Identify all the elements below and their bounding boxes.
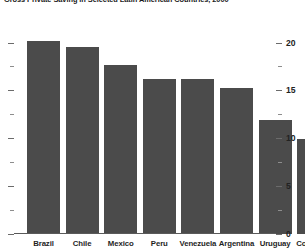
- bar-argentina: [220, 88, 253, 234]
- y-axis-label-20: 20: [286, 38, 296, 47]
- bar-chile: [66, 47, 99, 234]
- y-minor-tick-right-12.5: [278, 114, 282, 115]
- plot-area: 05101520 BrazilChileMexicoPeruVenezuelaA…: [0, 0, 305, 251]
- y-tick-right-10: [276, 138, 282, 139]
- y-tick-right-20: [276, 43, 282, 44]
- bar-mexico: [104, 65, 137, 234]
- y-axis-left-spine: [14, 30, 15, 234]
- y-axis-label-0: 0: [286, 229, 291, 238]
- x-axis-baseline: [14, 233, 276, 234]
- x-axis-label-colombia: Colombia: [291, 239, 305, 249]
- y-tick-right-15: [276, 90, 282, 91]
- y-minor-tick-right-17.5: [278, 66, 282, 67]
- y-tick-right-0: [276, 234, 282, 235]
- y-minor-tick-right-2.5: [278, 210, 282, 211]
- y-axis-label-5: 5: [286, 181, 291, 190]
- bar-peru: [143, 79, 176, 234]
- y-tick-right-5: [276, 186, 282, 187]
- bar-brazil: [27, 41, 60, 234]
- chart-figure: Gross Private Saving in Selected Latin A…: [0, 0, 305, 251]
- y-axis-label-15: 15: [286, 86, 296, 95]
- y-axis-label-10: 10: [286, 134, 296, 143]
- bar-venezuela: [181, 79, 214, 234]
- bar-colombia: [297, 139, 305, 234]
- y-minor-tick-right-7.5: [278, 162, 282, 163]
